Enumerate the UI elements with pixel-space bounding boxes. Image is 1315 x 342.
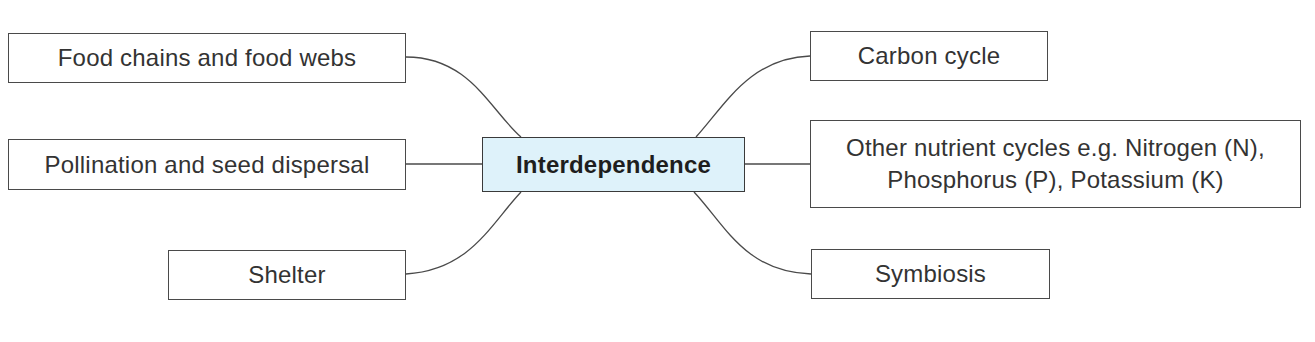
connector-shelter	[406, 192, 521, 274]
node-nutrient-cycles: Other nutrient cycles e.g. Nitrogen (N),…	[810, 120, 1301, 208]
node-label: Symbiosis	[875, 258, 986, 290]
central-node-label: Interdependence	[516, 149, 711, 181]
node-label: Food chains and food webs	[58, 42, 357, 74]
node-pollination: Pollination and seed dispersal	[8, 139, 406, 190]
connector-food-chains	[406, 57, 521, 137]
node-label: Pollination and seed dispersal	[45, 149, 370, 181]
connector-carbon-cycle	[696, 56, 810, 137]
central-node-interdependence: Interdependence	[482, 137, 745, 192]
connector-symbiosis	[694, 192, 811, 274]
node-label: Other nutrient cycles e.g. Nitrogen (N),…	[821, 132, 1290, 196]
node-shelter: Shelter	[168, 250, 406, 300]
node-label: Carbon cycle	[858, 40, 1000, 72]
node-food-chains: Food chains and food webs	[8, 33, 406, 83]
node-carbon-cycle: Carbon cycle	[810, 31, 1048, 81]
node-label: Shelter	[248, 259, 325, 291]
node-symbiosis: Symbiosis	[811, 249, 1050, 299]
